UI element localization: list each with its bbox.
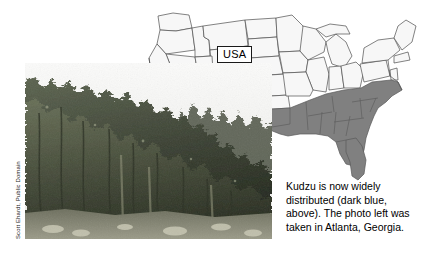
figure-caption: Kudzu is now widely distributed (dark bl… (286, 180, 422, 234)
caption-line: distributed (dark blue, (286, 194, 422, 208)
caption-line: above). The photo left was (286, 207, 422, 221)
caption-line: Kudzu is now widely (286, 180, 422, 194)
caption-line: taken in Atlanta, Georgia. (286, 221, 422, 235)
photo-credit: Scott Ehardt, Public Domain (11, 63, 25, 239)
kudzu-distribution-figure: USA (0, 0, 426, 254)
kudzu-photo (25, 63, 272, 239)
usa-map-label: USA (217, 46, 252, 63)
kudzu-photo-image (25, 63, 272, 239)
